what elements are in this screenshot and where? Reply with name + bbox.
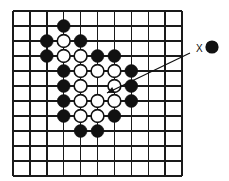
black-stone[interactable]: [40, 50, 53, 63]
white-stone[interactable]: [91, 95, 104, 108]
go-board-figure: X: [0, 0, 229, 181]
white-stone[interactable]: [91, 110, 104, 123]
white-stone[interactable]: [74, 65, 87, 78]
black-stone[interactable]: [74, 35, 87, 48]
black-stone[interactable]: [91, 50, 104, 63]
white-stone[interactable]: [108, 65, 121, 78]
black-stone[interactable]: [108, 50, 121, 63]
black-stone[interactable]: [91, 125, 104, 138]
black-stone[interactable]: [125, 65, 138, 78]
board-grid-lines: [13, 11, 182, 176]
black-stone[interactable]: [74, 125, 87, 138]
black-stone[interactable]: [57, 95, 70, 108]
white-stone[interactable]: [74, 110, 87, 123]
white-stone[interactable]: [74, 95, 87, 108]
white-stone[interactable]: [57, 50, 70, 63]
black-stone[interactable]: [57, 20, 70, 33]
legend-black-stone: [205, 40, 218, 53]
black-stone[interactable]: [57, 65, 70, 78]
go-board-diagram: [0, 0, 229, 181]
black-stone[interactable]: [40, 35, 53, 48]
white-stone[interactable]: [74, 80, 87, 93]
white-stone[interactable]: [91, 65, 104, 78]
white-stone[interactable]: [74, 50, 87, 63]
annotation-label-x: X: [196, 44, 203, 54]
black-stone[interactable]: [57, 110, 70, 123]
white-stone[interactable]: [108, 95, 121, 108]
black-stone[interactable]: [108, 110, 121, 123]
white-stone[interactable]: [57, 35, 70, 48]
black-stone[interactable]: [125, 95, 138, 108]
board-stones: [40, 20, 137, 138]
black-stone[interactable]: [57, 80, 70, 93]
